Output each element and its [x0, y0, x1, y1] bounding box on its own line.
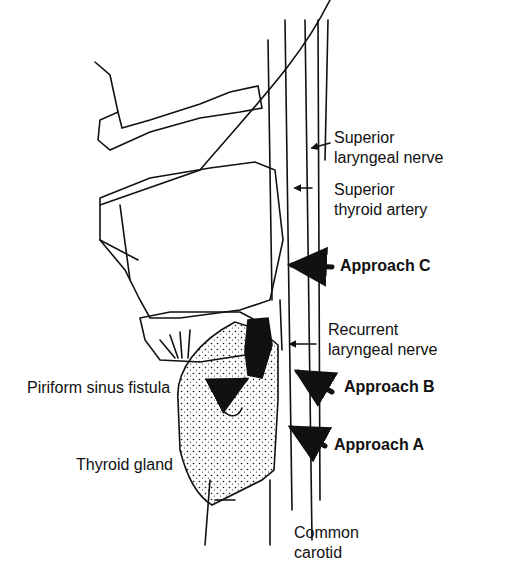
superior-laryngeal-nerve-pointer	[312, 143, 330, 148]
label-piriform-sinus-fistula: Piriform sinus fistula	[27, 378, 170, 398]
label-approach-a: Approach A	[334, 435, 424, 455]
approach-b-arrow	[298, 372, 332, 392]
label-recurrent-laryngeal-nerve: Recurrent laryngeal nerve	[328, 320, 437, 360]
label-line: carotid	[294, 543, 359, 563]
label-superior-thyroid-artery: Superior thyroid artery	[334, 180, 427, 220]
label-approach-b: Approach B	[344, 377, 435, 397]
label-line: Recurrent	[328, 320, 437, 340]
label-approach-c: Approach C	[340, 256, 431, 276]
thyroid-cartilage	[100, 162, 283, 318]
carotid-vessels	[268, 20, 328, 540]
label-line: Superior	[334, 128, 443, 148]
label-line: laryngeal nerve	[328, 340, 437, 360]
label-thyroid-gland: Thyroid gland	[76, 455, 173, 475]
label-common-carotid: Common carotid	[294, 523, 359, 563]
label-superior-laryngeal-nerve: Superior laryngeal nerve	[334, 128, 443, 168]
label-line: Superior	[334, 180, 427, 200]
label-line: Common	[294, 523, 359, 543]
recurrent-laryngeal-nerve-line	[280, 300, 282, 350]
approach-c-arrow	[292, 265, 332, 267]
anatomy-drawing	[0, 0, 510, 574]
label-line: thyroid artery	[334, 200, 427, 220]
label-line: laryngeal nerve	[334, 148, 443, 168]
hyoid-bone	[95, 62, 262, 150]
superior-laryngeal-nerve-line	[100, 0, 330, 205]
